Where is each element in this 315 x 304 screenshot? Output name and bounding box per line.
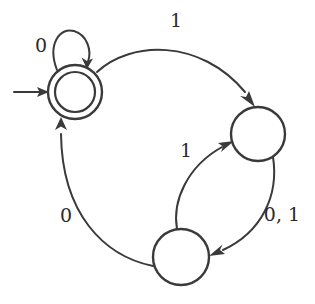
state-machine-diagram: 0 1 1 0, 1 0 xyxy=(0,0,315,304)
state-q2[interactable] xyxy=(153,229,209,285)
transition-q2-q0 xyxy=(55,117,153,266)
edge-label-q2-q1: 1 xyxy=(180,139,192,161)
transition-q0-q1-arrow-head xyxy=(240,91,255,107)
transition-q2-q0-path xyxy=(61,134,153,266)
automaton-canvas: 0 1 1 0, 1 0 xyxy=(0,0,315,304)
edge-label-q0-q1: 1 xyxy=(170,9,182,31)
transition-q2-q0-arrow-head xyxy=(55,117,67,130)
state-q0-inner-circle xyxy=(55,72,95,112)
transition-q0-q1-path xyxy=(97,50,245,92)
edge-label-q2-q0: 0 xyxy=(60,204,72,226)
state-q0-accepting[interactable] xyxy=(48,65,102,119)
state-q2-circle xyxy=(153,229,209,285)
start-arrow xyxy=(14,87,49,97)
state-q1-circle xyxy=(231,107,285,161)
edge-label-q1-q2: 0, 1 xyxy=(264,203,300,225)
state-q1[interactable] xyxy=(231,107,285,161)
edge-label-self-loop-q0: 0 xyxy=(35,34,47,56)
transition-q0-q1 xyxy=(97,50,255,107)
